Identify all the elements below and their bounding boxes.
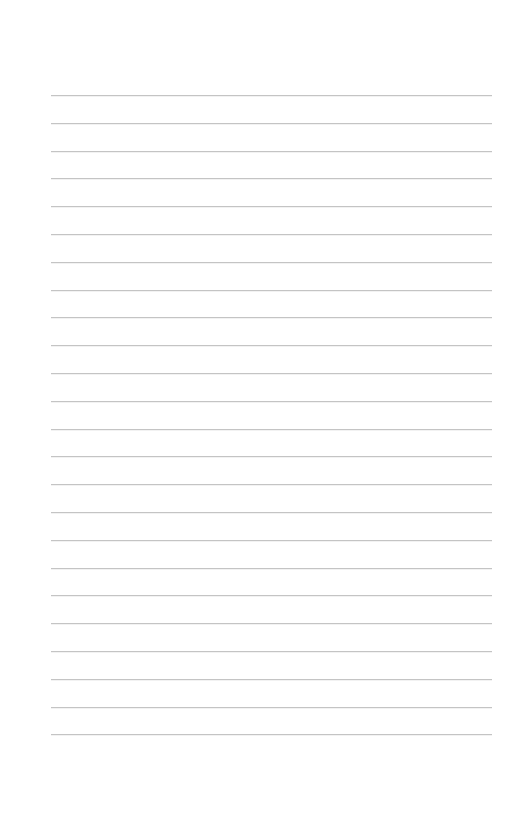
ruled-line	[51, 623, 492, 624]
ruled-line	[51, 234, 492, 235]
ruled-line	[51, 512, 492, 513]
ruled-line	[51, 734, 492, 735]
ruled-line	[51, 178, 492, 179]
ruled-line	[51, 651, 492, 652]
ruled-line	[51, 679, 492, 680]
ruled-line	[51, 595, 492, 596]
ruled-line	[51, 707, 492, 708]
ruled-line	[51, 151, 492, 152]
ruled-line	[51, 95, 492, 96]
ruled-line	[51, 317, 492, 318]
ruled-line	[51, 123, 492, 124]
ruled-line	[51, 345, 492, 346]
ruled-line	[51, 373, 492, 374]
ruled-line	[51, 484, 492, 485]
ruled-line	[51, 456, 492, 457]
ruled-line	[51, 290, 492, 291]
lined-paper-page	[0, 0, 507, 818]
ruled-line	[51, 540, 492, 541]
ruled-line	[51, 568, 492, 569]
ruled-line	[51, 262, 492, 263]
ruled-line	[51, 206, 492, 207]
ruled-line	[51, 401, 492, 402]
ruled-line	[51, 429, 492, 430]
